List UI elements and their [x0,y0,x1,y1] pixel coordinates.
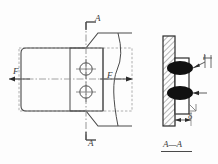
weld-bead-upper [167,61,193,75]
force-arrow-left [9,77,30,82]
thickness-label: δ [188,112,192,121]
force-label-right: F [107,71,113,80]
base-plate-section [163,36,175,126]
section-label-a-top: A [95,14,101,23]
drawing-svg [0,0,218,164]
section-caption-underline [161,151,192,152]
force-label-left: F [13,67,19,76]
inner-pad-outline [70,48,103,111]
main-view-group [9,22,133,140]
weld-bead-lower [167,86,193,100]
hole-upper [76,59,96,79]
section-label-a-bottom: A [88,139,94,148]
force-arrow-right [100,76,133,81]
corner-bracket-detail [189,104,196,111]
section-view-caption: A—A [163,140,182,149]
technical-drawing-canvas: A A F F l δ A—A [0,0,218,164]
weld-leader-lower [193,91,207,95]
weld-length-label: l [203,54,205,62]
section-marker-top [86,22,96,30]
hole-lower [76,82,96,102]
